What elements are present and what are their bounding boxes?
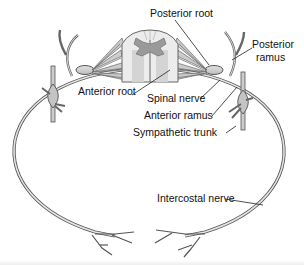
spinal-nerve-diagram: Posterior root Posterior ramus Anterior …: [0, 0, 304, 265]
left-ganglion: [76, 66, 94, 75]
label-intercostal-nerve: Intercostal nerve: [157, 193, 235, 204]
sympathetic-trunk-right: [229, 72, 253, 130]
terminal-branches-right: [155, 230, 205, 257]
label-anterior-ramus: Anterior ramus: [144, 110, 213, 121]
label-posterior-ramus-2: ramus: [256, 52, 285, 63]
cropped-caption: [0, 260, 304, 265]
spinal-cord: [122, 30, 178, 82]
nerve-roots-left: [92, 38, 126, 80]
terminal-branches-left: [92, 232, 134, 255]
label-posterior-root: Posterior root: [150, 8, 213, 19]
right-ganglion: [205, 66, 223, 75]
sympathetic-trunk-left: [42, 66, 65, 122]
label-anterior-root: Anterior root: [78, 86, 136, 97]
label-sympathetic-trunk: Sympathetic trunk: [133, 127, 217, 138]
label-posterior-ramus: Posterior: [252, 39, 294, 50]
label-spinal-nerve: Spinal nerve: [147, 93, 205, 104]
